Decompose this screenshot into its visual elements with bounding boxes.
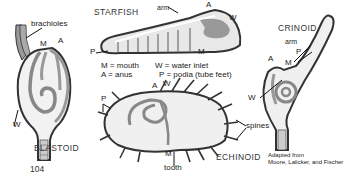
legend-water-inlet: W = water inlet (155, 62, 208, 70)
starfish-anus-label: A (206, 1, 211, 9)
starfish-title: STARFISH (94, 8, 139, 17)
echinoid-podia-label: P (101, 95, 106, 103)
crinoid-water-inlet-label: W (248, 94, 256, 102)
credit-line-1: Adapted from (268, 152, 343, 159)
legend-anus: A = anus (101, 71, 132, 79)
starfish-water-inlet-label: W (229, 14, 237, 22)
legend-podia: P = podia (tube feet) (159, 71, 232, 79)
echinoid-spines-label: spines (246, 122, 269, 130)
blastoid-title: BLASTOID (34, 144, 79, 153)
starfish-mouth-label: M (198, 48, 205, 56)
starfish-podia-label: P (90, 48, 95, 56)
echinoid-anus-label: A (152, 82, 157, 90)
credit: Adapted from Moore, Lalicker, and Fische… (268, 152, 343, 165)
blastoid-mouth-label: M (40, 40, 47, 48)
echinoid-water-inlet-label: W (163, 80, 171, 88)
echinoid-tooth-label: tooth (164, 164, 182, 172)
blastoid-anus-label: A (58, 37, 63, 45)
crinoid-anus-label: A (268, 55, 273, 63)
blastoid-water-inlet-label: W (13, 121, 21, 129)
blastoid-brachioles-label: brachioles (31, 20, 67, 28)
crinoid-arm-label: arm (285, 38, 297, 45)
crinoid-podia-label: P (296, 48, 301, 56)
crinoid-title: CRINOID (278, 24, 317, 33)
crinoid-figure (260, 16, 334, 150)
legend-mouth: M = mouth (101, 62, 139, 70)
credit-line-2: Moore, Lalicker, and Fischer (268, 159, 343, 166)
echinoid-mouth-label: M (165, 150, 172, 158)
echinoid-title: ECHINOID (216, 153, 261, 162)
page-number: 104 (30, 165, 44, 174)
starfish-arm-label: arm (157, 4, 169, 11)
crinoid-mouth-label: M (285, 59, 292, 67)
